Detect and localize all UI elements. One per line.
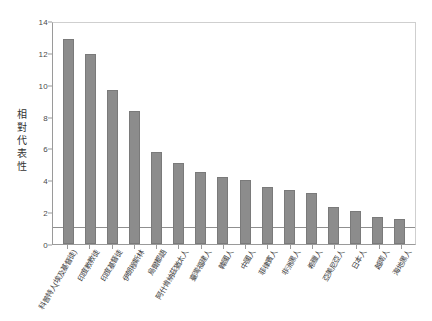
x-axis-tick-mark [401, 245, 402, 249]
bar [151, 152, 162, 244]
x-axis-tick-label: 伊朗穆斯林 [120, 248, 145, 283]
x-axis-tick-label: 希臘人 [305, 248, 323, 271]
x-axis-tick-label: 日本人 [350, 248, 368, 271]
bar [328, 207, 339, 244]
bar [107, 90, 118, 245]
x-axis-tick-mark [112, 245, 113, 249]
plot-area [52, 22, 416, 245]
y-axis-tick-label: 12 [39, 49, 49, 58]
x-axis-tick-mark [356, 245, 357, 249]
y-axis: 02468101214 [0, 0, 52, 267]
bar [85, 54, 96, 244]
x-axis-tick-mark [290, 245, 291, 249]
x-axis-tick-label: 海地黑人 [391, 248, 413, 277]
bar [372, 217, 383, 244]
x-axis-tick-mark [223, 245, 224, 249]
x-axis-tick-label: 菲律賓人 [257, 248, 279, 277]
x-axis-tick-mark [89, 245, 90, 249]
bar [129, 111, 140, 244]
x-axis-tick-label: 非洲黑人 [280, 248, 302, 277]
bar [394, 219, 405, 244]
y-axis-tick-label: 14 [39, 18, 49, 27]
x-axis-tick-mark [178, 245, 179, 249]
x-axis-tick-mark [201, 245, 202, 249]
y-axis-tick-label: 10 [39, 81, 49, 90]
x-axis-tick-mark [67, 245, 68, 249]
x-axis-tick-mark [334, 245, 335, 249]
x-axis-tick-mark [156, 245, 157, 249]
x-axis: 科普特人(埃及基督徒)印度教教徒印度基督徒伊朗穆斯林烏爾都語阿什肯納茲猶太人臺灣… [52, 246, 416, 321]
x-axis-tick-label: 中國人 [239, 248, 257, 271]
bar [262, 187, 273, 244]
x-axis-tick-mark [267, 245, 268, 249]
x-axis-tick-mark [134, 245, 135, 249]
bar [173, 163, 184, 244]
x-axis-tick-mark [379, 245, 380, 249]
bar [63, 39, 74, 244]
bar [240, 180, 251, 244]
bar [350, 211, 361, 244]
bar-chart: 相 對 代 表 性 02468101214 科普特人(埃及基督徒)印度教教徒印度… [0, 0, 432, 321]
bar [284, 190, 295, 244]
x-axis-tick-label: 越南人 [372, 248, 390, 271]
x-axis-tick-mark [245, 245, 246, 249]
x-axis-tick-mark [312, 245, 313, 249]
x-axis-tick-label: 臺灣福建人 [187, 248, 212, 283]
x-axis-tick-label: 韓國人 [216, 248, 234, 271]
x-axis-tick-label: 亞美尼亞人 [321, 248, 346, 283]
bar [306, 193, 317, 244]
bar [217, 177, 228, 244]
bar-series [53, 23, 415, 244]
x-axis-tick-label: 烏爾都語 [146, 248, 168, 277]
bar [195, 172, 206, 244]
